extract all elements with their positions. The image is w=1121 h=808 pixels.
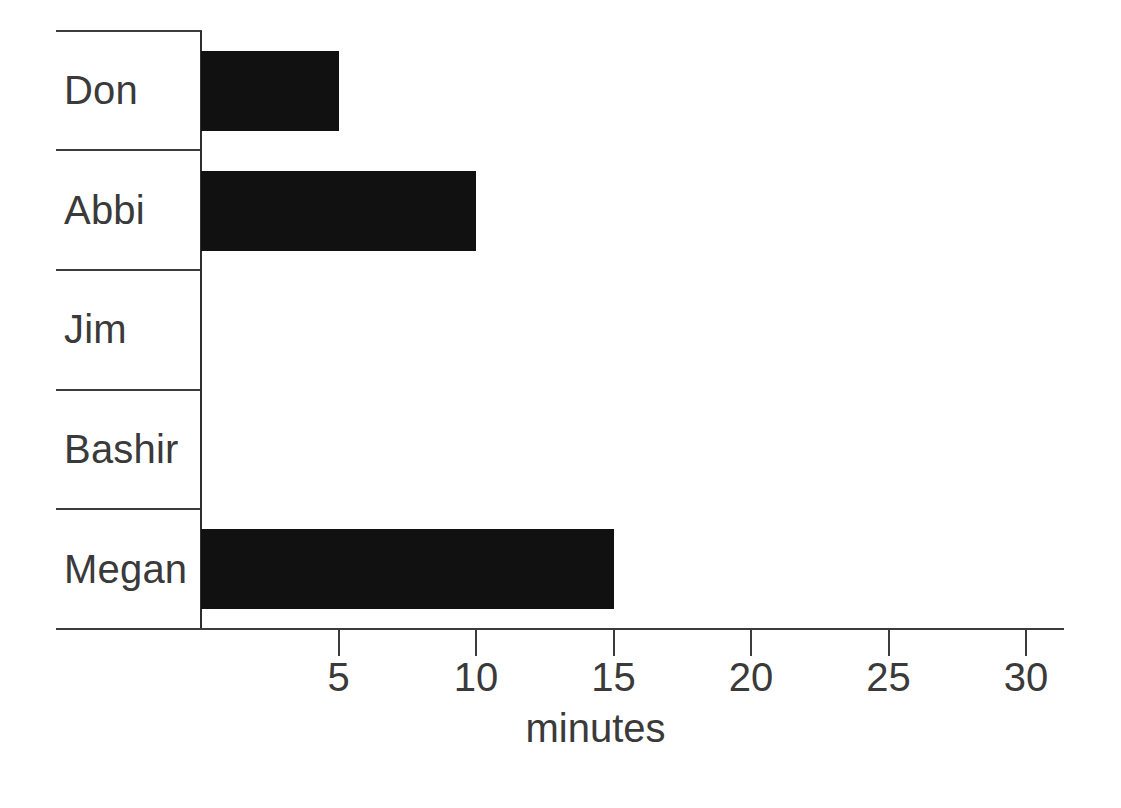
category-label-jim: Jim: [64, 270, 127, 390]
x-tick-mark-15: [613, 630, 615, 656]
bar-chart: Don Abbi Jim Bashir Megan 5 10 15 20 25 …: [0, 0, 1121, 808]
x-tick-mark-5: [338, 630, 340, 656]
x-tick-mark-20: [750, 630, 752, 656]
x-axis-title-text: minutes: [525, 706, 665, 750]
chart-row-bashir: Bashir: [0, 390, 1121, 510]
chart-row-don: Don: [0, 31, 1121, 151]
x-tick-label-25: 25: [866, 655, 911, 700]
x-tick-label-30: 30: [1004, 655, 1049, 700]
category-label-abbi: Abbi: [64, 151, 145, 271]
x-tick-label-5: 5: [327, 655, 349, 700]
x-tick-mark-30: [1025, 630, 1027, 656]
bar-abbi: [201, 171, 476, 251]
chart-row-megan: Megan: [0, 509, 1121, 629]
x-tick-label-20: 20: [729, 655, 774, 700]
x-tick-mark-10: [475, 630, 477, 656]
x-axis-title: minutes: [0, 706, 1121, 751]
category-label-don: Don: [64, 31, 138, 151]
category-label-bashir: Bashir: [64, 390, 179, 510]
x-tick-label-10: 10: [454, 655, 499, 700]
x-tick-mark-25: [888, 630, 890, 656]
x-axis-line: [56, 628, 1064, 630]
bar-don: [201, 51, 339, 131]
x-tick-label-15: 15: [591, 655, 636, 700]
category-label-megan: Megan: [64, 509, 187, 629]
bar-megan: [201, 529, 614, 609]
chart-row-jim: Jim: [0, 270, 1121, 390]
chart-row-abbi: Abbi: [0, 151, 1121, 271]
